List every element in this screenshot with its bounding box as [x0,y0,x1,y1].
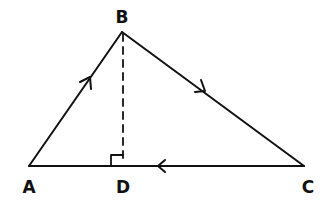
vertex-label-a: A [22,177,36,197]
side-bc [122,32,304,166]
vertex-label-b: B [116,7,129,27]
vertex-label-d: D [116,177,130,197]
right-angle-marker [111,155,123,166]
vertex-label-c: C [302,177,314,197]
triangle-diagram: A B C D [0,0,329,211]
side-ab [29,32,122,166]
